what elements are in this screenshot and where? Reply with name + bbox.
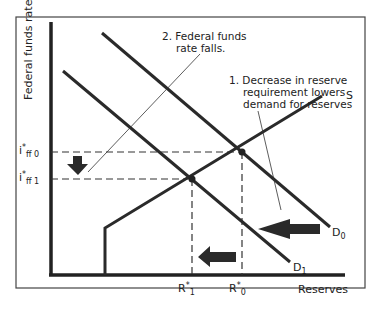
reserves-r0-label: R*0 — [229, 283, 246, 296]
annotation-step1-line2: requirement lowers — [229, 86, 352, 98]
demand-d0-label: D0 — [332, 227, 346, 240]
annotation-step2-line2: rate falls. — [162, 42, 247, 54]
rate-ff0-label: i*ff 0 — [19, 145, 39, 158]
rate-ff1-sub: ff 1 — [26, 177, 39, 186]
demand-d0-sub: 0 — [340, 232, 345, 241]
annotation-step2-line1: 2. Federal funds — [162, 30, 247, 42]
left-arrow-icon-upper — [258, 219, 320, 239]
annotation-step1-line3: demand for reserves — [229, 98, 352, 110]
y-axis-label: Federal funds rate — [22, 0, 35, 100]
equilibrium-new — [189, 176, 196, 183]
reserves-r1-label: R*1 — [178, 283, 195, 296]
leader-line-step2 — [88, 54, 200, 172]
x-axis-label: Reserves — [298, 284, 348, 296]
equilibrium-initial — [239, 149, 246, 156]
rate-ff0-sub: ff 0 — [26, 150, 39, 159]
demand-d1-sub: 1 — [301, 267, 306, 276]
reserves-r0-main: R — [229, 282, 237, 295]
rate-ff1-label: i*ff 1 — [19, 172, 39, 185]
left-arrow-icon-lower — [198, 246, 236, 267]
reserves-r1-sub: 1 — [190, 288, 195, 297]
annotation-step1-line1: 1. Decrease in reserve — [229, 74, 352, 86]
demand-d1-label: D1 — [293, 262, 307, 275]
annotation-step2: 2. Federal funds rate falls. — [162, 30, 247, 54]
reserves-r0-sub: 0 — [241, 288, 246, 297]
supply-curve — [105, 96, 322, 275]
down-arrow-icon — [67, 156, 88, 175]
reserves-r1-main: R — [178, 282, 186, 295]
leader-line-step1 — [258, 111, 281, 210]
annotation-step1: 1. Decrease in reserve requirement lower… — [229, 74, 352, 110]
